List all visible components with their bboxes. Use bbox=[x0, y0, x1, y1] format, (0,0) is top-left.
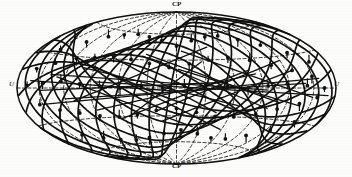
projection-canvas bbox=[0, 0, 352, 177]
sky-projection-figure: CP CP U U bbox=[0, 0, 352, 177]
south-pole-label: CP bbox=[172, 163, 181, 170]
west-edge-label: U bbox=[9, 81, 14, 88]
east-edge-label: U bbox=[334, 81, 339, 88]
north-pole-label: CP bbox=[172, 1, 181, 8]
